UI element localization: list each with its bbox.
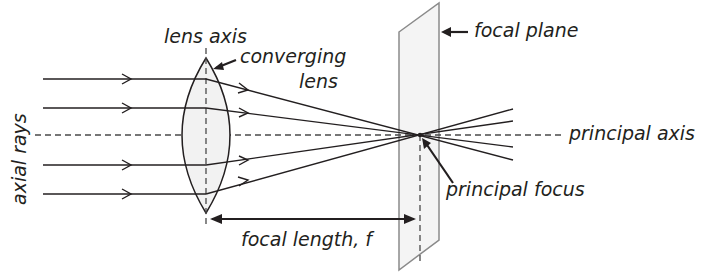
converging-lens-label-line1: converging <box>240 47 346 66</box>
focal-plane-label: focal plane <box>474 21 578 40</box>
axial-rays-label: axial rays <box>10 113 29 205</box>
focal-length-arrow <box>210 214 416 224</box>
principal-axis-label: principal axis <box>569 124 695 143</box>
refracted-rays <box>206 79 513 194</box>
converging-lens-label-line2: lens <box>299 72 338 91</box>
lens-diagram: lens axis converging lens axial rays foc… <box>0 0 714 277</box>
principal-focus-point <box>418 133 422 137</box>
lens-axis-label: lens axis <box>164 27 247 46</box>
principal-focus-label: principal focus <box>446 180 585 199</box>
focal-length-label: focal length, f <box>241 230 372 249</box>
